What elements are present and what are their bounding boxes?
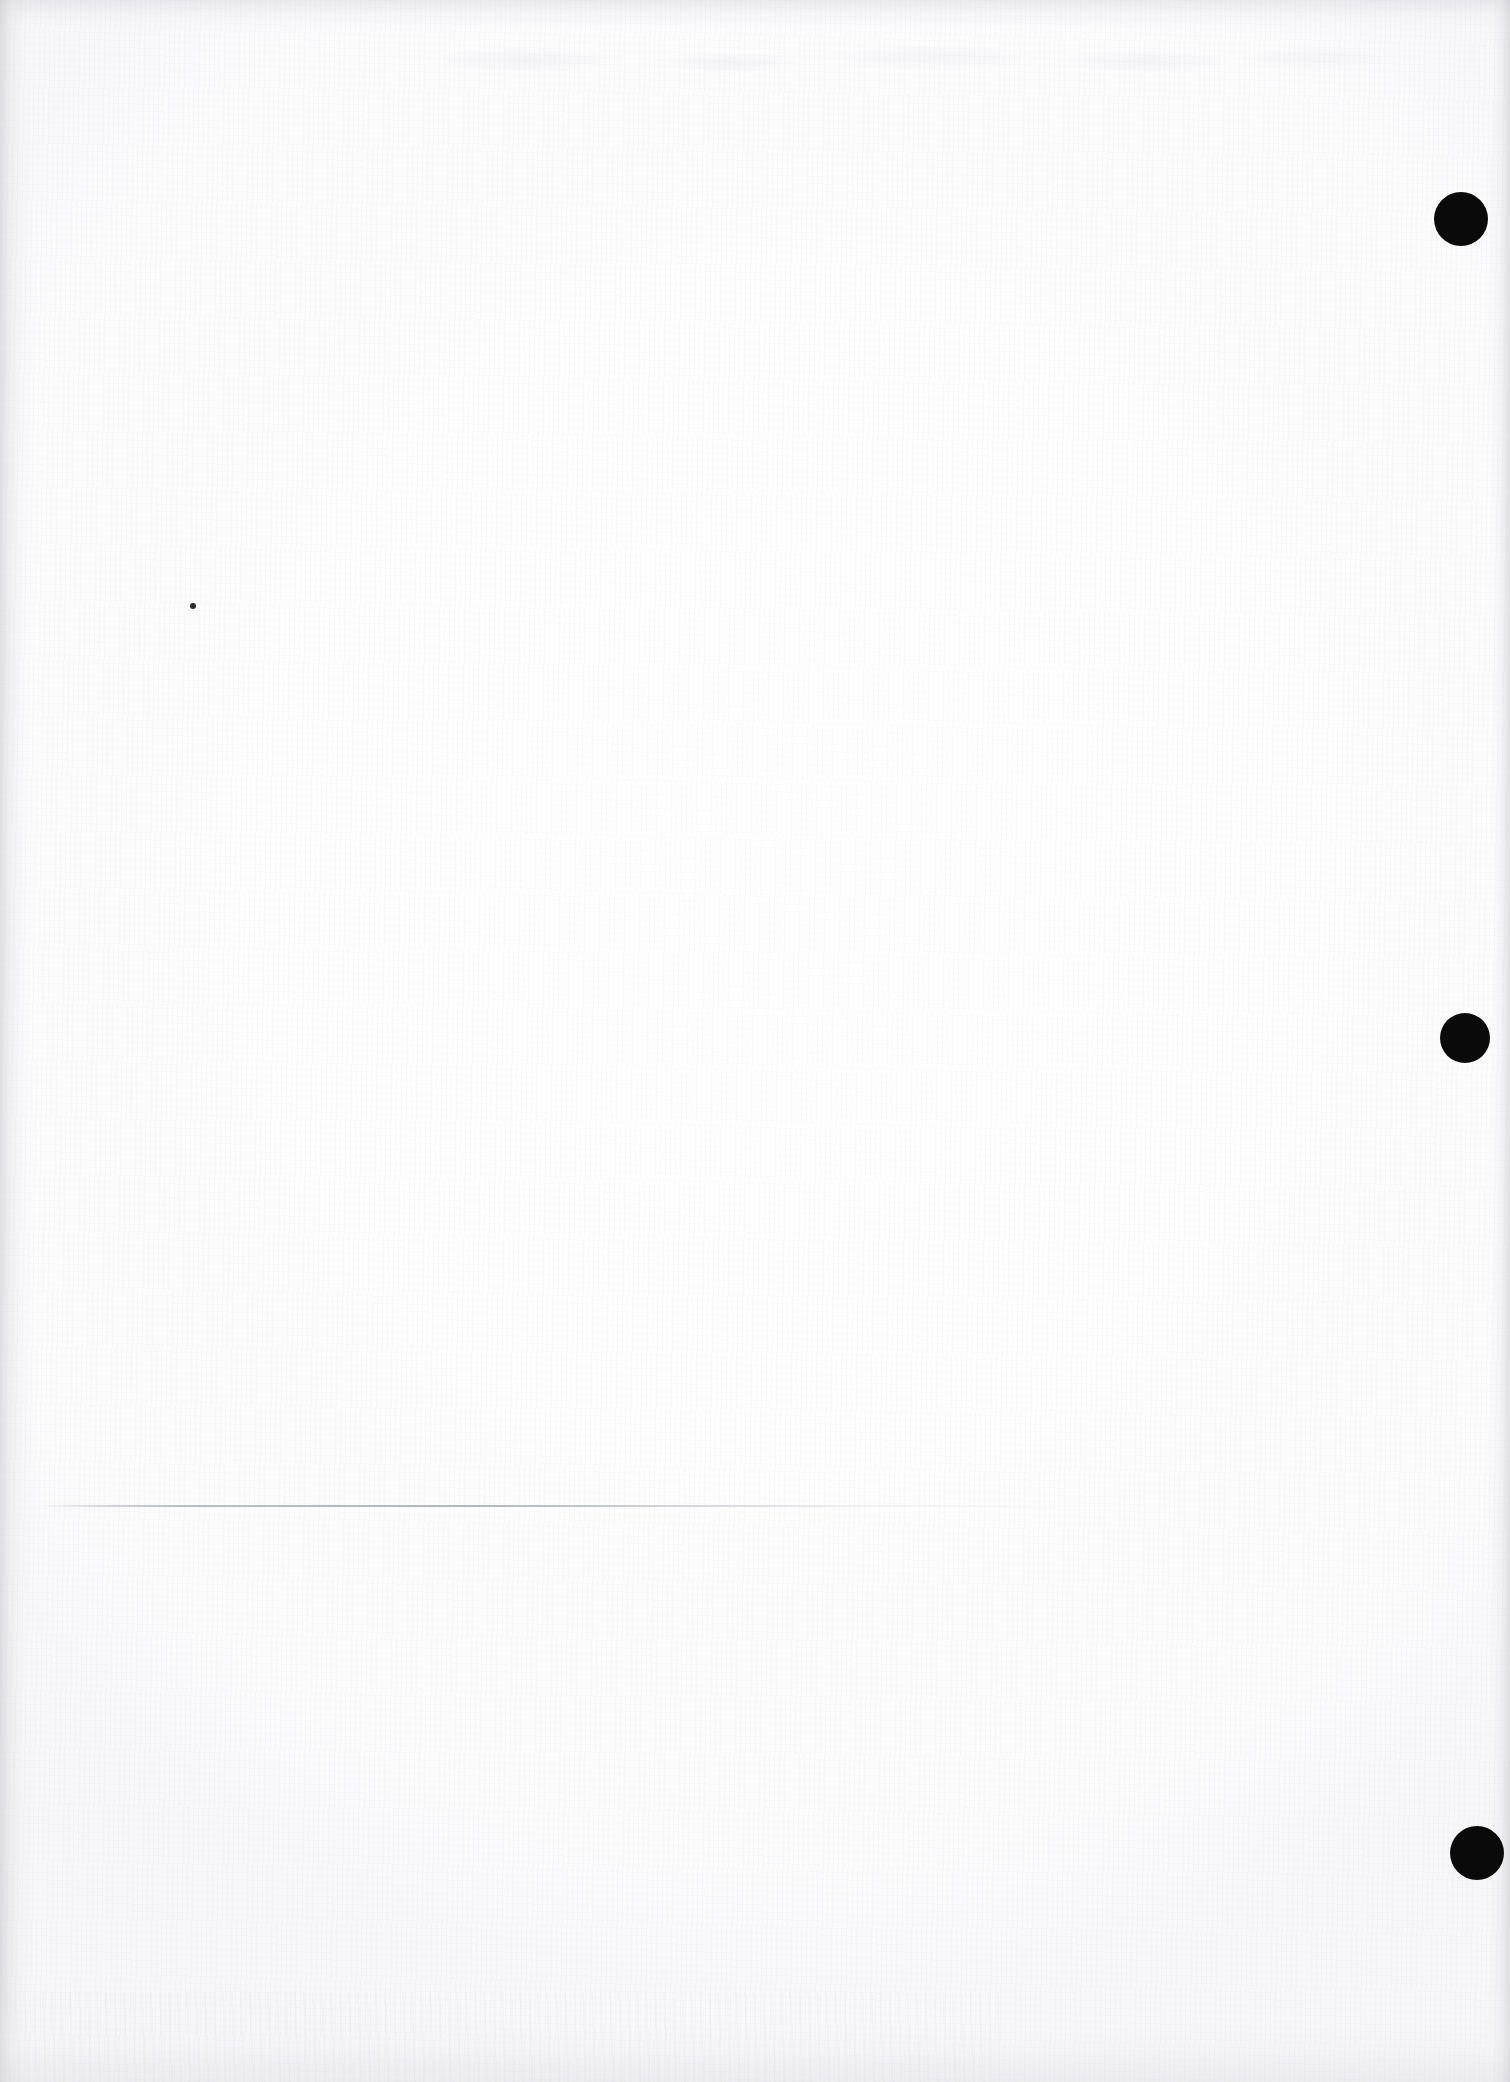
registration-dot-top (1434, 192, 1488, 246)
registration-dot-bottom (1450, 1826, 1504, 1880)
scan-shadow-bottom-edge (0, 1996, 1510, 2082)
scanned-page (0, 0, 1510, 2082)
ink-speck (190, 603, 196, 609)
scan-shadow-top-edge (0, 0, 1510, 40)
paper-grain-texture (0, 0, 1510, 2082)
faint-horizontal-rule (40, 1505, 1190, 1507)
scan-shadow-left-edge (0, 0, 44, 2082)
registration-dot-middle (1440, 1013, 1490, 1063)
